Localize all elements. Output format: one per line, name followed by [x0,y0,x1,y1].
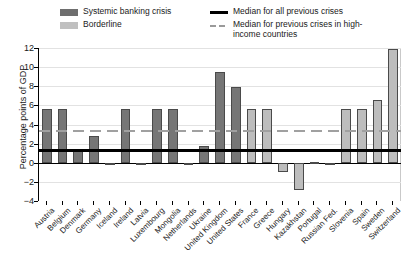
bar-russian-fed[interactable] [325,163,335,165]
y-tick-label: −4 [10,197,34,206]
x-tick-mark [329,201,330,205]
bar-france[interactable] [247,109,257,163]
reference-line-median-all [39,149,401,151]
x-tick-mark [46,201,47,205]
solid-line-swatch-icon [210,9,228,16]
x-tick-mark [203,201,204,205]
chart-root: Systemic banking crisis Borderline Media… [0,0,404,273]
legend-column-lines: Median for all previous crises Median fo… [210,6,383,42]
y-tick-mark [34,86,38,87]
bar-slovenia[interactable] [341,109,351,163]
legend-item-systemic: Systemic banking crisis [60,6,171,16]
legend-column-bars: Systemic banking crisis Borderline [60,6,171,32]
legend-item-median-all: Median for all previous crises [210,6,383,16]
light-bar-swatch-icon [60,22,78,29]
x-tick-mark [235,201,236,205]
bar-greece[interactable] [262,109,272,163]
y-tick-mark [34,48,38,49]
bar-netherlands[interactable] [184,163,194,165]
legend-item-median-high-income: Median for previous crises in high-incom… [210,19,383,39]
y-tick-mark [34,125,38,126]
x-tick-mark [250,201,251,205]
x-tick-mark [156,201,157,205]
x-tick-mark [266,201,267,205]
y-tick-label: 10 [10,63,34,72]
y-axis-tick-labels: −4−2024681012 [10,46,34,201]
bar-ireland[interactable] [121,109,131,163]
bar-luxembourg[interactable] [152,109,162,163]
legend-label-median-high-income: Median for previous crises in high-incom… [233,19,383,39]
y-tick-mark [34,163,38,164]
y-tick-label: 12 [10,44,34,53]
x-tick-mark [282,201,283,205]
legend-label-median-all: Median for all previous crises [233,6,343,16]
x-tick-mark [109,201,110,205]
y-tick-label: −2 [10,177,34,186]
bar-mongolia[interactable] [168,109,178,163]
bar-hungary[interactable] [278,163,288,173]
dashed-line-swatch-icon [210,22,228,29]
bar-portugal[interactable] [310,162,320,164]
x-tick-mark [345,201,346,205]
chart-legend: Systemic banking crisis Borderline Media… [0,4,404,46]
y-tick-label: 2 [10,139,34,148]
x-axis-ticks [38,201,400,205]
y-tick-mark [34,144,38,145]
x-tick-mark [376,201,377,205]
bar-latvia[interactable] [136,163,146,165]
bar-iceland[interactable] [105,163,115,165]
y-tick-label: 8 [10,82,34,91]
legend-label-borderline: Borderline [83,19,122,29]
dark-bar-swatch-icon [60,9,78,16]
x-tick-mark [77,201,78,205]
x-axis-tick-labels: AustriaBelgiumDenmarkGermanyIcelandIrela… [38,206,400,273]
bar-austria[interactable] [42,109,52,163]
bar-switzerland[interactable] [388,49,398,163]
x-tick-mark [188,201,189,205]
y-tick-label: 4 [10,120,34,129]
y-tick-label: 0 [10,158,34,167]
bar-kazakhstan[interactable] [294,163,304,190]
x-tick-mark [172,201,173,205]
reference-line-median-high-income [39,130,401,132]
x-tick-mark [298,201,299,205]
x-tick-mark [361,201,362,205]
bar-belgium[interactable] [58,109,68,163]
x-tick-mark [313,201,314,205]
bar-spain[interactable] [357,109,367,163]
x-tick-mark [219,201,220,205]
legend-item-borderline: Borderline [60,19,171,29]
x-tick-mark [125,201,126,205]
plot-axes [38,48,401,201]
y-tick-mark [34,182,38,183]
y-tick-mark [34,67,38,68]
x-tick-mark [62,201,63,205]
y-tick-mark [34,201,38,202]
plot-area-wrapper: Percentage points of GDP −4−2024681012 A… [0,46,404,273]
x-tick-mark [140,201,141,205]
y-tick-mark [34,105,38,106]
x-tick-mark [93,201,94,205]
bar-series [39,48,401,201]
y-tick-label: 6 [10,101,34,110]
x-tick-mark [392,201,393,205]
legend-label-systemic: Systemic banking crisis [83,6,171,16]
